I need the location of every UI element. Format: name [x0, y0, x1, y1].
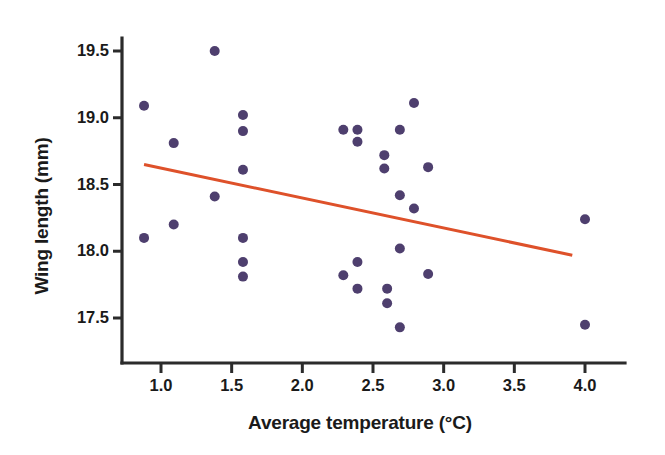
data-point [169, 138, 179, 148]
data-point [580, 320, 590, 330]
y-axis-title: Wing length (mm) [31, 101, 53, 331]
data-point [338, 270, 348, 280]
data-point [382, 284, 392, 294]
data-point [352, 257, 362, 267]
data-point [238, 165, 248, 175]
y-axis-tick-label: 19.0 [49, 108, 109, 127]
data-point [238, 233, 248, 243]
y-axis-tick-label: 19.5 [49, 41, 109, 60]
x-axis-tick-label: 1.5 [202, 376, 262, 395]
data-point [352, 284, 362, 294]
x-axis-tick-label: 1.0 [131, 376, 191, 395]
data-point [580, 214, 590, 224]
x-axis-tick-label: 3.0 [414, 376, 474, 395]
data-point [238, 272, 248, 282]
data-point [210, 192, 220, 202]
trend-line [144, 164, 572, 255]
data-point [423, 269, 433, 279]
data-point [139, 233, 149, 243]
data-point [395, 125, 405, 135]
y-axis-tick-label: 18.5 [49, 175, 109, 194]
y-axis-tick-label: 18.0 [49, 241, 109, 260]
x-axis-tick-label: 3.5 [484, 376, 544, 395]
data-point [238, 257, 248, 267]
data-point [238, 110, 248, 120]
y-axis-tick-label: 17.5 [49, 308, 109, 327]
data-point [409, 98, 419, 108]
data-point [352, 137, 362, 147]
x-axis-tick-label: 2.5 [343, 376, 403, 395]
data-point [169, 220, 179, 230]
data-point [238, 126, 248, 136]
data-point [139, 101, 149, 111]
scatter-chart: Wing length (mm) Average temperature (°C… [0, 0, 665, 455]
data-point [382, 298, 392, 308]
data-point-group [139, 46, 590, 332]
data-point [338, 125, 348, 135]
data-point [395, 190, 405, 200]
data-point [352, 125, 362, 135]
x-axis-tick-label: 2.0 [272, 376, 332, 395]
data-point [423, 162, 433, 172]
data-point [210, 46, 220, 56]
data-point [395, 322, 405, 332]
data-point [395, 244, 405, 254]
x-axis-tick-label: 4.0 [555, 376, 615, 395]
data-point [409, 204, 419, 214]
data-point [379, 150, 389, 160]
x-axis-title: Average temperature (°C) [120, 412, 600, 434]
data-point [379, 163, 389, 173]
